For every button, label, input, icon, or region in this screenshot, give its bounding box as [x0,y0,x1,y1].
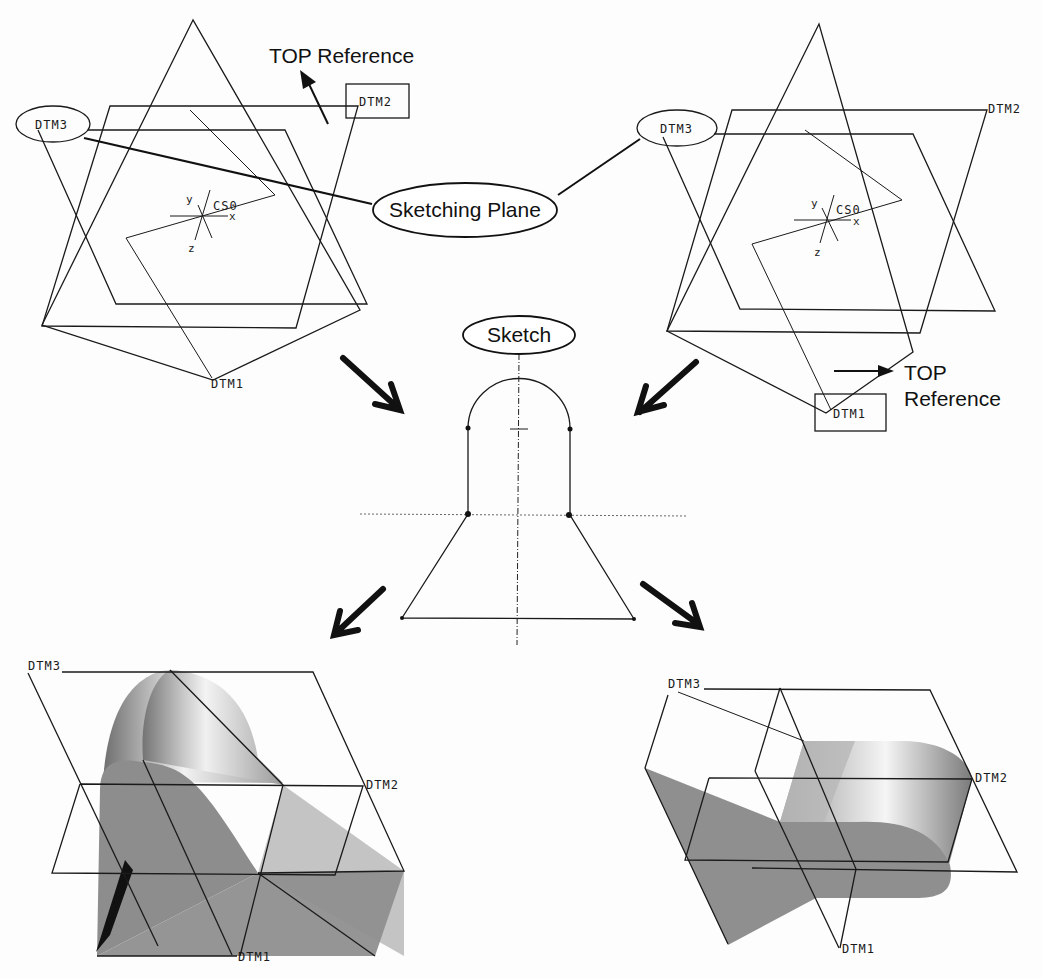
top-reference-label-line2: Reference [904,387,1001,410]
dtm3-label-right: DTM3 [660,122,693,136]
top-left-datum-view: y CS0 x z DTM3 DTM2 DTM1 TOP Reference [16,20,414,391]
dtm1-plane-top-br [755,688,780,771]
sketch-orientation-diagram: y CS0 x z DTM3 DTM2 DTM1 TOP Reference S… [0,0,1042,978]
bottom-left-extrusion-result: DTM3 DTM2 DTM1 [28,659,404,964]
top-reference-arrowhead [300,70,316,89]
dtm2-label: DTM2 [359,95,392,109]
top-reference-label-line1: TOP [904,361,947,384]
arrow-down-right-icon [343,358,400,410]
csys-y-label-right: y [811,197,818,210]
dtm3-label-br: DTM3 [668,677,701,691]
leader-line-right [558,139,640,195]
sketch-vertex [465,511,471,517]
top-reference-arrow [308,82,328,124]
csys-x-label-right: x [853,215,860,228]
dtm3-label: DTM3 [35,118,68,132]
sketch-vertex [568,427,573,432]
dtm1-label-right: DTM1 [833,407,866,421]
arrow-down-left-icon [638,362,696,412]
csys-y-label: y [186,193,193,206]
dtm3-plane-outline [38,130,367,304]
csys-z-label: z [188,242,195,255]
dtm1-label: DTM1 [211,377,244,391]
arrow-down-right-icon-2 [643,584,700,627]
dtm3-label-bl: DTM3 [28,659,61,673]
arrow-down-left-icon-2 [334,589,383,635]
dtm2-label-br: DTM2 [975,771,1008,785]
top-reference-label: TOP Reference [269,44,414,67]
sketch-vertex [632,617,636,621]
dtm2-label-bl: DTM2 [366,778,399,792]
csys-x-label: x [229,210,236,223]
sketching-plane-label: Sketching Plane [389,198,541,221]
diagram-canvas: y CS0 x z DTM3 DTM2 DTM1 TOP Reference S… [0,0,1042,978]
dtm1-label-br: DTM1 [842,942,875,956]
sketch-label: Sketch [487,323,551,346]
top-right-datum-view: y CS0 x z DTM3 DTM2 DTM1 TOP Reference [637,24,1021,431]
sketch-vertex [400,616,404,620]
dtm2-label-right: DTM2 [988,102,1021,116]
sketching-plane-callout: Sketching Plane [84,138,640,237]
sketch-vertex [466,426,471,431]
sketch-profile: Sketch [360,316,688,645]
sketch-horizontal-centerline [360,514,688,516]
sketch-vertical-centerline [517,354,519,645]
dtm1-label-bl: DTM1 [238,950,271,964]
csys-z-label-right: z [814,246,821,259]
dtm3-inner-hexagon [126,110,275,378]
dtm1-plane-outline-right [667,24,913,413]
sketch-vertex [566,512,572,518]
bottom-right-extrusion-result: DTM3 DTM2 DTM1 [645,677,1017,956]
